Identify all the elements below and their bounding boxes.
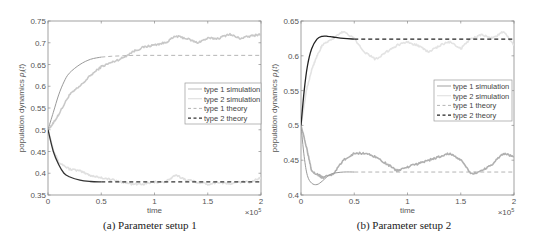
x-tick-label: 1 [152, 197, 157, 206]
x-tick-label: 1.5 [455, 197, 467, 206]
y-tick-label: 0.75 [30, 17, 46, 26]
x-tick-label: 0.5 [96, 197, 108, 206]
legend: type 1 simulationtype 2 simulationtype 1… [434, 80, 512, 121]
figure-caption: (a) Parameter setup 1 [103, 219, 197, 232]
legend-label: type 1 simulation [204, 85, 260, 94]
x-axis-label: time [147, 206, 163, 215]
x-tick-label: 2 [512, 197, 517, 206]
x-tick-label: 2 [259, 197, 264, 206]
legend-label: type 2 theory [453, 111, 497, 120]
x-tick-label: 1.5 [202, 197, 214, 206]
y-tick-label: 0.5 [35, 126, 47, 135]
x-tick-label: 0 [299, 197, 304, 206]
y-tick-label: 0.65 [30, 61, 46, 70]
y-tick-label: 0.7 [35, 39, 47, 48]
legend: type 1 simulationtype 2 simulationtype 1… [185, 83, 261, 124]
x-axis-label: time [400, 206, 416, 215]
y-tick-label: 0.6 [35, 82, 47, 91]
y-tick-label: 0.5 [288, 121, 300, 130]
legend-label: type 2 simulation [453, 92, 509, 101]
y-tick-label: 0.45 [283, 156, 299, 165]
x-multiplier: ×105 [245, 207, 262, 217]
x-multiplier: ×105 [498, 207, 515, 217]
y-axis-label: population dynamics pi(t) [17, 63, 27, 152]
y-tick-label: 0.65 [283, 17, 299, 26]
y-tick-label: 0.45 [30, 148, 46, 157]
y-axis-label: population dynamics pi(t) [270, 63, 280, 152]
figure: 0.350.40.450.50.550.60.650.70.7500.511.5… [0, 0, 538, 247]
plot-parameter-setup-2: 0.40.450.50.550.60.6500.511.52×105timepo… [270, 17, 517, 232]
plot-parameter-setup-1: 0.350.40.450.50.550.60.650.70.7500.511.5… [17, 17, 264, 232]
y-tick-label: 0.55 [30, 104, 46, 113]
y-tick-label: 0.6 [288, 52, 300, 61]
legend-label: type 2 simulation [204, 95, 260, 104]
legend-label: type 1 simulation [453, 82, 509, 91]
figure-caption: (b) Parameter setup 2 [357, 219, 451, 232]
x-tick-label: 0 [46, 197, 51, 206]
x-tick-label: 0.5 [349, 197, 361, 206]
x-tick-label: 1 [405, 197, 410, 206]
legend-label: type 2 theory [204, 114, 248, 123]
legend-label: type 1 theory [453, 101, 497, 110]
legend-label: type 1 theory [204, 104, 248, 113]
y-tick-label: 0.55 [283, 87, 299, 96]
y-tick-label: 0.35 [30, 191, 46, 200]
y-tick-label: 0.4 [35, 169, 47, 178]
